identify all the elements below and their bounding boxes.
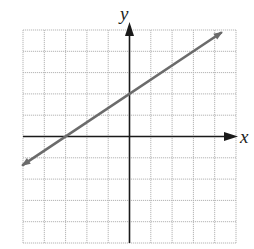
y-axis-label: y	[120, 4, 128, 23]
axes	[23, 22, 238, 243]
x-axis-arrow-icon	[224, 132, 238, 141]
series-line	[23, 33, 221, 165]
x-axis-label: x	[240, 127, 248, 146]
coordinate-plane	[0, 0, 254, 249]
y-axis-arrow-icon	[125, 22, 134, 36]
data-line	[21, 32, 222, 166]
